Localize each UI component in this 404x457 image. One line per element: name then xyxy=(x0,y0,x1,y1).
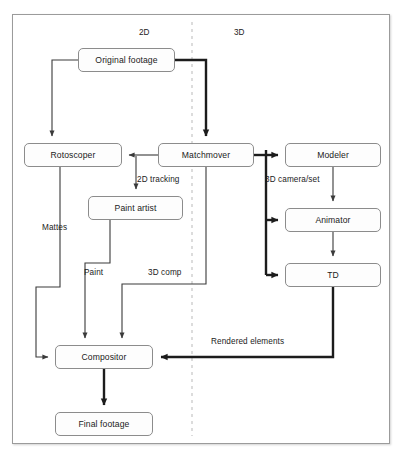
edge-label-paint: Paint xyxy=(84,268,103,277)
node-original-footage[interactable]: Original footage xyxy=(78,48,175,72)
edge-matchmover-to-compositor xyxy=(122,167,206,338)
node-compositor[interactable]: Compositor xyxy=(55,345,153,369)
region-label-3d: 3D xyxy=(234,28,244,37)
node-modeler[interactable]: Modeler xyxy=(285,143,381,167)
edge-label-3d-comp: 3D comp xyxy=(148,268,181,277)
edge-label-2d-tracking: 2D tracking xyxy=(137,175,180,184)
node-final-footage[interactable]: Final footage xyxy=(55,412,153,436)
node-td[interactable]: TD xyxy=(285,263,381,287)
edge-original-footage-to-rotoscoper xyxy=(52,60,78,136)
node-matchmover[interactable]: Matchmover xyxy=(158,143,254,167)
diagram-canvas: 2D 3D Original footage Rotoscoper Matchm… xyxy=(0,0,404,457)
node-animator[interactable]: Animator xyxy=(285,208,381,232)
node-rotoscoper[interactable]: Rotoscoper xyxy=(24,143,122,167)
edge-paint-artist-to-compositor xyxy=(85,220,110,338)
edge-label-mattes: Mattes xyxy=(42,223,67,232)
edge-rotoscoper-to-compositor xyxy=(36,167,60,357)
edge-label-rendered-elements: Rendered elements xyxy=(211,337,284,346)
edge-original-footage-to-matchmover xyxy=(175,60,206,136)
edge-td-to-compositor xyxy=(161,287,333,357)
node-paint-artist[interactable]: Paint artist xyxy=(88,196,183,220)
edge-label-3d-camera-set: 3D camera/set xyxy=(265,175,320,184)
region-label-2d: 2D xyxy=(139,28,149,37)
